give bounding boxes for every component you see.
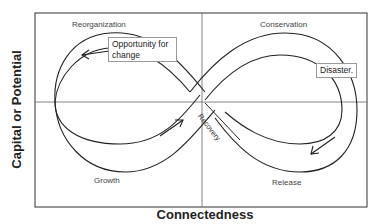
- disaster-callout: Disaster.: [316, 63, 357, 78]
- y-axis-label-text: Capital or Potential: [9, 50, 24, 168]
- phase-label-release: Release: [272, 178, 301, 187]
- x-axis-label: Connectedness: [140, 207, 270, 222]
- opportunity-for-change-callout: Opportunity for change: [108, 37, 177, 62]
- y-axis-label: Capital or Potential: [2, 54, 30, 164]
- diagram-canvas: [0, 0, 382, 224]
- callout-line-1: Opportunity for: [112, 39, 173, 50]
- growth-arrow: [160, 120, 183, 136]
- phase-label-growth: Growth: [94, 176, 120, 185]
- phase-label-conservation: Conservation: [260, 20, 307, 29]
- callout-line-2: change: [112, 50, 173, 61]
- adaptive-cycle-diagram: Capital or Potential Connectedness Reorg…: [0, 0, 382, 224]
- plot-frame: [35, 13, 367, 207]
- phase-label-reorganization: Reorganization: [72, 20, 126, 29]
- outer-curve-right-loop: [190, 33, 357, 172]
